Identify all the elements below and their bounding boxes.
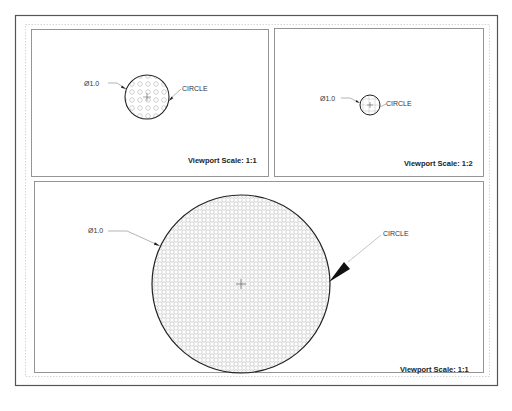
viewport-2[interactable]: Ø1.0 CIRCLE Viewport Scale: 1:2 [275,29,484,177]
viewport-scale-label: Viewport Scale: 1:1 [188,156,257,165]
viewport-scale-label: Viewport Scale: 1:2 [404,159,473,168]
layout-sheet: Ø1.0 CIRCLE Viewport Scale: 1:1 Ø1.0 CIR… [0,0,512,411]
viewport-1[interactable]: Ø1.0 CIRCLE Viewport Scale: 1:1 [32,30,269,177]
object-label: CIRCLE [383,230,409,237]
viewport-3[interactable]: Ø1.0 CIRCLE Viewport Scale: 1:1 [35,182,484,376]
viewport-scale-label: Viewport Scale: 1:1 [400,365,469,374]
diameter-label: Ø1.0 [84,80,99,87]
object-label: CIRCLE [182,85,208,92]
diameter-label: Ø1.0 [320,95,335,102]
object-label: CIRCLE [386,100,412,107]
diameter-label: Ø1.0 [88,227,103,234]
